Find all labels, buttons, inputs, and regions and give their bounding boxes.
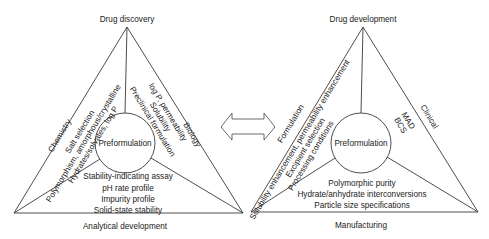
manufacturing-item: Hydrate/anhydrate interconversions bbox=[297, 190, 426, 199]
manufacturing-item: Particle size specifications bbox=[314, 201, 410, 210]
left-center-label: Preformulation bbox=[98, 139, 152, 148]
left-divider-bottom-right bbox=[151, 158, 243, 213]
analytical-item: Solid-state stability bbox=[94, 206, 163, 215]
right-divider-top bbox=[361, 27, 363, 113]
double-arrow-icon bbox=[221, 113, 275, 140]
analytical-item: Impurity profile bbox=[101, 195, 155, 204]
manufacturing-item: Polymorphic purity bbox=[328, 179, 396, 188]
right-center-label: Preformulation bbox=[334, 139, 388, 148]
left-bottom-label: Analytical development bbox=[83, 222, 168, 231]
left-diagram: Drug discovery Preformulation Chemistry … bbox=[14, 15, 243, 231]
clinical-items: MAD BCS bbox=[392, 111, 417, 136]
clinical-group: Clinical bbox=[418, 103, 439, 130]
analytical-item: pH rate profile bbox=[102, 184, 154, 193]
right-diagram: Drug development Preformulation Formulat… bbox=[248, 15, 478, 231]
preformulation-diagram: Drug discovery Preformulation Chemistry … bbox=[0, 0, 489, 239]
analytical-item: Stability-indicating assay bbox=[83, 172, 174, 181]
left-top-label: Drug discovery bbox=[100, 15, 156, 24]
right-bottom-label: Manufacturing bbox=[335, 221, 387, 230]
left-divider-top bbox=[125, 27, 127, 113]
right-top-label: Drug development bbox=[330, 15, 398, 24]
clinical-label: Clinical bbox=[418, 103, 439, 130]
